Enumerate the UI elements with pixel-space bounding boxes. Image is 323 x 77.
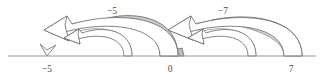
diagram-canvas: −5 −7 −5 0 7	[0, 0, 323, 77]
jump-minus-five-group	[40, 16, 178, 56]
tick-label-seven: 7	[289, 64, 294, 74]
tick-label-minus-five: −5	[42, 64, 52, 74]
jump-label-minus-seven: −7	[218, 6, 228, 16]
tick-label-zero: 0	[168, 64, 173, 74]
number-line-figure: −5 −7 −5 0 7	[0, 0, 323, 77]
jump-minus-five-foot	[40, 44, 56, 56]
jump-minus-seven-group	[168, 16, 302, 56]
jump-label-minus-five: −5	[107, 6, 117, 16]
